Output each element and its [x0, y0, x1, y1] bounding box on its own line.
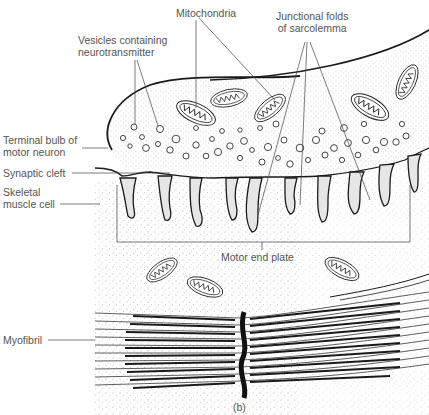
label-mitochondria: Mitochondria [176, 7, 236, 19]
label-synaptic-cleft: Synaptic cleft [3, 167, 65, 179]
panel-label: (b) [233, 401, 246, 413]
neuromuscular-junction-diagram [0, 0, 429, 415]
label-junctional-folds: Junctional folds of sarcolemma [276, 10, 348, 34]
label-myofibril: Myofibril [3, 334, 42, 346]
label-vesicles: Vesicles containing neurotransmitter [78, 34, 167, 58]
label-skeletal-muscle-cell: Skeletal muscle cell [3, 186, 55, 210]
label-motor-end-plate: Motor end plate [221, 251, 294, 263]
label-terminal-bulb: Terminal bulb of motor neuron [3, 134, 77, 158]
